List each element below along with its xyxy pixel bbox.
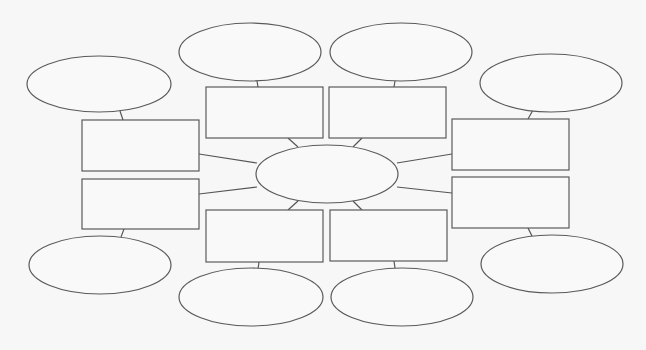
rectangle-node[interactable] (329, 87, 446, 138)
ellipse-bottom-right[interactable] (331, 268, 473, 326)
concept-map-diagram (0, 0, 646, 350)
rectangle-node[interactable] (82, 179, 199, 229)
connector-line (121, 229, 124, 237)
ellipse-node[interactable] (29, 236, 171, 294)
ellipse-far-left-top[interactable] (27, 56, 171, 112)
rectangle-node[interactable] (452, 119, 569, 170)
ellipse-node[interactable] (330, 23, 472, 81)
connector-line (199, 154, 257, 163)
ellipse-bottom-left[interactable] (179, 268, 323, 326)
box-right-upper[interactable] (452, 119, 569, 170)
box-top-left[interactable] (206, 87, 323, 138)
shapes-layer (27, 23, 623, 326)
box-left-lower[interactable] (82, 179, 199, 229)
rectangle-node[interactable] (206, 210, 323, 262)
connector-line (353, 201, 362, 210)
ellipse-node[interactable] (179, 268, 323, 326)
connector-line (288, 138, 298, 147)
ellipse-node[interactable] (331, 268, 473, 326)
connector-line (353, 138, 362, 147)
connector-line (199, 187, 257, 194)
box-top-right[interactable] (329, 87, 446, 138)
rectangle-node[interactable] (206, 87, 323, 138)
connector-line (397, 154, 452, 163)
connector-line (394, 81, 395, 87)
connector-line (397, 187, 452, 193)
ellipse-top-left[interactable] (179, 23, 321, 81)
rectangle-node[interactable] (452, 177, 569, 228)
central-ellipse-node[interactable] (256, 145, 398, 203)
box-right-lower[interactable] (452, 177, 569, 228)
ellipse-node[interactable] (27, 56, 171, 112)
connector-line (394, 261, 395, 268)
box-left-upper[interactable] (82, 120, 199, 171)
ellipse-top-right[interactable] (330, 23, 472, 81)
ellipse-node[interactable] (480, 54, 622, 112)
box-bottom-left[interactable] (206, 210, 323, 262)
ellipse-far-right-bottom[interactable] (481, 235, 623, 293)
ellipse-far-left-bottom[interactable] (29, 236, 171, 294)
rectangle-node[interactable] (330, 210, 447, 261)
connector-line (288, 201, 298, 210)
connector-line (257, 81, 258, 87)
ellipse-far-right-top[interactable] (480, 54, 622, 112)
center-ellipse[interactable] (256, 145, 398, 203)
connector-line (120, 111, 123, 120)
ellipse-node[interactable] (179, 23, 321, 81)
connector-line (528, 228, 532, 236)
rectangle-node[interactable] (82, 120, 199, 171)
concept-map-canvas (0, 0, 646, 350)
box-bottom-right[interactable] (330, 210, 447, 261)
ellipse-node[interactable] (481, 235, 623, 293)
